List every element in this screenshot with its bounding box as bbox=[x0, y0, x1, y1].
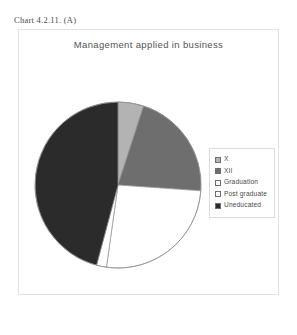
legend-item[interactable]: Graduation bbox=[215, 177, 270, 189]
chart-legend: X XII Graduation Post graduate Uneducate… bbox=[209, 148, 275, 218]
legend-label: XII bbox=[224, 168, 233, 175]
legend-item[interactable]: X bbox=[215, 154, 270, 166]
chart-page: Chart 4.2.11. (A) Management applied in … bbox=[0, 0, 297, 335]
legend-swatch-dark-gray-icon bbox=[215, 168, 221, 174]
legend-item[interactable]: Uneducated bbox=[215, 200, 270, 212]
legend-item[interactable]: XII bbox=[215, 166, 270, 178]
legend-label: Post graduate bbox=[224, 191, 267, 198]
legend-label: Uneducated bbox=[224, 202, 261, 209]
legend-swatch-gray-icon bbox=[215, 157, 221, 163]
legend-label: Graduation bbox=[224, 179, 258, 186]
chart-caption: Chart 4.2.11. (A) bbox=[14, 15, 76, 25]
legend-swatch-white-icon bbox=[215, 191, 221, 197]
legend-swatch-white-icon bbox=[215, 180, 221, 186]
pie-slice-graduation[interactable] bbox=[106, 185, 200, 268]
legend-label: X bbox=[224, 156, 229, 163]
legend-item[interactable]: Post graduate bbox=[215, 189, 270, 201]
legend-swatch-black-icon bbox=[215, 203, 221, 209]
chart-frame: Management applied in business X XII Gra… bbox=[18, 29, 279, 295]
